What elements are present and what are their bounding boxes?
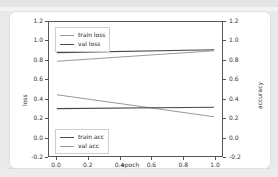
legend-swatch-line: [60, 137, 74, 138]
page-bottom-strip: [0, 168, 278, 177]
x-axis-tick-label: 0.2: [76, 162, 100, 168]
x-axis-tick-mark: [120, 157, 121, 160]
x-axis-tick-mark: [88, 157, 89, 160]
y-axis-right-tick-mark: [223, 99, 226, 100]
y-axis-right-tick-label: 0.4: [229, 96, 239, 102]
x-axis-title: epoch: [121, 161, 139, 168]
y-axis-right-tick-label: -0.2: [229, 154, 241, 160]
x-axis-tick-mark: [151, 157, 152, 160]
y-axis-left-tick-label: -0.2: [17, 154, 43, 160]
y-axis-left-tick-label: 0.0: [17, 135, 43, 141]
x-axis-tick-mark: [56, 157, 57, 160]
y-axis-right-title: accuracy: [256, 82, 263, 109]
y-axis-right-tick-mark: [223, 21, 226, 22]
x-axis-tick-mark: [215, 157, 216, 160]
y-axis-right-tick-label: 0.0: [229, 135, 239, 141]
screenshot-root: 1.21.00.80.60.40.20.0-0.2 1.21.00.80.60.…: [0, 0, 278, 177]
legend-entry: train loss: [60, 31, 105, 39]
x-axis-tick-label: 0.8: [171, 162, 195, 168]
legend-label: train loss: [78, 32, 105, 38]
legend-label: val acc: [78, 143, 99, 149]
y-axis-right-tick-mark: [223, 138, 226, 139]
y-axis-right-tick-label: 0.8: [229, 57, 239, 63]
legend-entry: val loss: [60, 40, 105, 48]
y-axis-right-tick-label: 0.2: [229, 115, 239, 121]
legend-swatch-line: [60, 146, 74, 147]
matplotlib-figure: 1.21.00.80.60.40.20.0-0.2 1.21.00.80.60.…: [9, 11, 269, 167]
y-axis-left-tick-label: 0.2: [17, 115, 43, 121]
y-axis-right-tick-mark: [223, 79, 226, 80]
y-axis-right-tick-mark: [223, 40, 226, 41]
legend-loss: train lossval loss: [55, 27, 110, 52]
y-axis-left-tick-label: 0.6: [17, 76, 43, 82]
x-axis-tick-label: 0.6: [139, 162, 163, 168]
legend-entry: val acc: [60, 142, 104, 150]
y-axis-left-title: loss: [21, 94, 28, 106]
legend-swatch-line: [60, 35, 74, 36]
y-axis-left-tick-mark: [45, 157, 48, 158]
legend-label: val loss: [78, 41, 100, 47]
y-axis-left-tick-label: 0.8: [17, 57, 43, 63]
y-axis-right-tick-mark: [223, 118, 226, 119]
y-axis-right-tick-label: 1.0: [229, 37, 239, 43]
legend-accuracy: train accval acc: [55, 129, 109, 154]
legend-swatch-line: [60, 44, 74, 45]
series-line-train-acc: [57, 95, 214, 117]
y-axis-left-tick-label: 1.2: [17, 18, 43, 24]
page-top-strip: [0, 0, 278, 7]
x-axis-tick-label: 0.0: [44, 162, 68, 168]
y-axis-right-tick-label: 1.2: [229, 18, 239, 24]
legend-label: train acc: [78, 134, 104, 140]
x-axis-tick-mark: [183, 157, 184, 160]
y-axis-right-tick-mark: [223, 60, 226, 61]
series-line-val-acc: [57, 107, 214, 108]
y-axis-right-tick-mark: [223, 157, 226, 158]
legend-entry: train acc: [60, 133, 104, 141]
y-axis-right-tick-label: 0.6: [229, 76, 239, 82]
x-axis-tick-label: 1.0: [203, 162, 227, 168]
y-axis-left-tick-label: 1.0: [17, 37, 43, 43]
